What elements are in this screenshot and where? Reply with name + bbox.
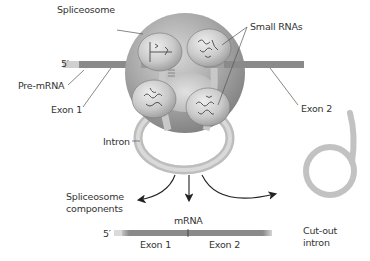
arrow-to-components <box>139 175 175 200</box>
arrows <box>139 175 275 200</box>
label-intron: Intron <box>103 136 130 147</box>
leader-pre-mrna <box>68 70 84 85</box>
arrow-to-intron <box>202 175 275 198</box>
label-small-rnas: Small RNAs <box>250 21 303 32</box>
label-five-prime-bottom: 5′ <box>103 228 111 239</box>
label-cut-out-intron-line1: Cut-out <box>303 225 337 236</box>
label-cut-out-intron: Cut-out intron <box>303 225 337 248</box>
label-spliceosome: Spliceosome <box>57 4 115 15</box>
label-exon1-top: Exon 1 <box>51 104 82 115</box>
label-spliceosome-components-line2: components <box>66 203 124 214</box>
label-spliceosome-components-line1: Spliceosome <box>66 191 124 202</box>
small-rna-top-left <box>138 33 182 71</box>
label-five-prime-top: 5′ <box>61 58 69 69</box>
leader-exon1 <box>83 68 111 107</box>
small-rna-bottom-left <box>132 80 176 118</box>
label-cut-out-intron-line2: intron <box>303 237 337 248</box>
cut-out-intron-lariat <box>306 113 354 195</box>
label-exon2-top: Exon 2 <box>301 103 332 114</box>
label-pre-mrna: Pre-mRNA <box>18 80 64 91</box>
label-spliceosome-components: Spliceosome components <box>66 191 124 214</box>
label-exon2-bottom: Exon 2 <box>209 239 240 250</box>
small-rna-bottom-right <box>186 88 230 126</box>
leader-exon2 <box>270 68 298 105</box>
mrna-strand <box>114 229 272 237</box>
label-mrna: mRNA <box>174 215 203 226</box>
spliceosome-diagram: Spliceosome Small RNAs 5′ Pre-mRNA Exon … <box>0 0 370 261</box>
small-rna-top-right <box>187 29 231 67</box>
leader-spliceosome <box>117 30 143 34</box>
label-exon1-bottom: Exon 1 <box>140 239 171 250</box>
